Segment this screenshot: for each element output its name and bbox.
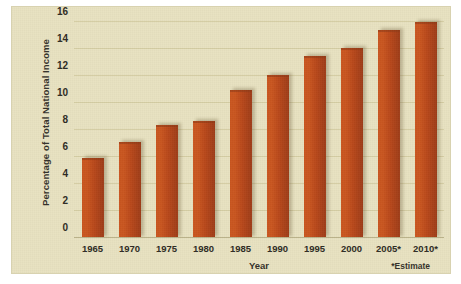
x-axis-title: Year xyxy=(74,260,444,271)
bar-top-edge xyxy=(230,90,252,92)
y-axis-tick-label: 12 xyxy=(57,60,68,71)
bar xyxy=(119,142,141,238)
bar xyxy=(341,48,363,238)
y-axis-tick-label: 6 xyxy=(62,141,68,152)
x-axis-tick-label: 1995 xyxy=(304,243,325,254)
bar-top-edge xyxy=(193,121,215,123)
x-axis-tick-label: 2000 xyxy=(341,243,362,254)
x-axis-tick-label: 1990 xyxy=(267,243,288,254)
bar xyxy=(156,125,178,238)
bar xyxy=(193,121,215,238)
chart-card: Percentage of Total National Income 0246… xyxy=(11,6,451,274)
x-axis-tick-label: 1965 xyxy=(82,243,103,254)
bar xyxy=(378,30,400,238)
y-axis-title: Percentage of Total National Income xyxy=(40,13,51,233)
x-axis-line xyxy=(74,237,444,238)
bar-top-edge xyxy=(378,30,400,32)
y-axis-tick-label: 10 xyxy=(57,87,68,98)
bar-top-edge xyxy=(82,158,104,160)
estimate-footnote: *Estimate xyxy=(391,261,430,271)
x-axis-tick-label: 1970 xyxy=(119,243,140,254)
y-axis-tick-label: 16 xyxy=(57,6,68,17)
x-axis-tick-label: 1980 xyxy=(193,243,214,254)
bar xyxy=(230,90,252,239)
bar-top-edge xyxy=(304,56,326,58)
bar-top-edge xyxy=(415,22,437,24)
y-axis-tick-label: 8 xyxy=(62,114,68,125)
x-axis-tick-label: 1975 xyxy=(156,243,177,254)
bar-top-edge xyxy=(156,125,178,127)
bar xyxy=(267,75,289,238)
gridline xyxy=(74,21,444,22)
bar-top-edge xyxy=(119,142,141,144)
bar-top-edge xyxy=(341,48,363,50)
x-axis-tick-label: 2005* xyxy=(376,243,401,254)
bar xyxy=(82,158,104,238)
chart-plot-wrapper: Percentage of Total National Income 0246… xyxy=(12,7,450,273)
bar-top-edge xyxy=(267,75,289,77)
y-axis-tick-label: 14 xyxy=(57,33,68,44)
y-axis-tick-label: 2 xyxy=(62,195,68,206)
x-axis-tick-label: 2010* xyxy=(413,243,438,254)
y-axis-tick-label: 4 xyxy=(62,168,68,179)
y-axis-tick-label: 0 xyxy=(62,222,68,233)
x-axis-tick-label: 1985 xyxy=(230,243,251,254)
plot-area: 0246810121416 19651970197519801985199019… xyxy=(74,22,444,238)
bar xyxy=(415,22,437,238)
bar xyxy=(304,56,326,238)
